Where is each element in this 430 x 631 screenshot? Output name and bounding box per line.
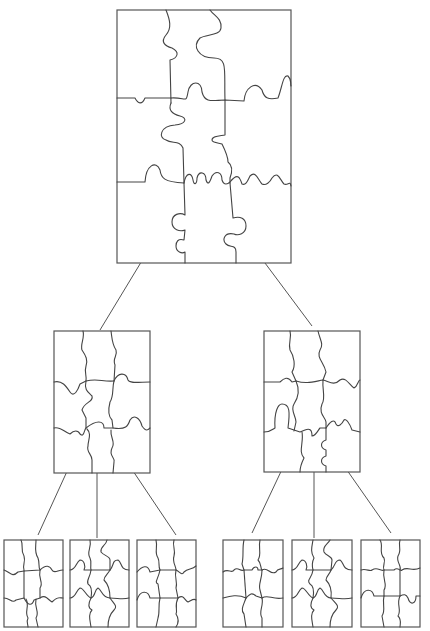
puzzle-leaf-6 <box>361 540 420 627</box>
edge-mid-right-to-leaf-6 <box>342 463 391 533</box>
puzzle-root <box>117 10 291 263</box>
puzzle-leaf-2 <box>70 540 129 627</box>
puzzle-leaf-1 <box>4 540 63 627</box>
puzzle-tree-diagram <box>0 0 430 631</box>
puzzle-leaf-5 <box>292 540 352 627</box>
puzzle-mid-left <box>54 331 150 473</box>
puzzle-leaf-3 <box>137 540 196 627</box>
puzzle-mid-right <box>264 331 360 472</box>
edge-root-to-mid-right <box>262 259 312 326</box>
edge-root-to-mid-left <box>100 259 143 330</box>
edge-mid-right-to-leaf-4 <box>252 463 285 533</box>
puzzle-leaf-4 <box>223 540 283 627</box>
edge-mid-left-to-leaf-1 <box>38 467 69 535</box>
edge-mid-left-to-leaf-3 <box>129 465 176 535</box>
